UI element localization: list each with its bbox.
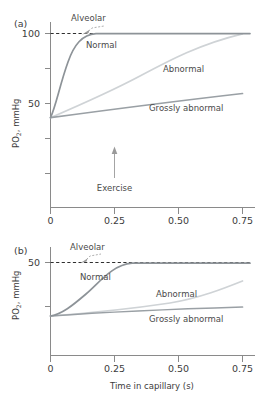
panel-b: (b) PO2, mmHg 50 0 0.25 0.50 0.75 Time (11, 242, 255, 391)
panel-a-x-ticklabel-0: 0 (47, 215, 53, 226)
panel-a-label-grossly-abnormal: Grossly abnormal (149, 103, 223, 113)
svg-text:PO2, mmHg: PO2, mmHg (11, 98, 22, 148)
panel-a-x-ticklabel-075: 0.75 (232, 215, 253, 226)
panel-b-label-abnormal: Abnormal (156, 289, 197, 299)
panel-b-x-ticklabel-0: 0 (47, 363, 53, 374)
panel-a-exercise-arrow-icon (112, 147, 118, 155)
panel-a-y-ticklabel-50: 50 (28, 98, 40, 109)
panel-b-x-axis-title: Time in capillary (s) (109, 381, 194, 391)
panel-b-x-ticklabel-075: 0.75 (232, 363, 253, 374)
panel-a: (a) PO2, mmHg 100 50 0 (11, 13, 255, 226)
panel-b-y-axis-title: PO2, mmHg (11, 270, 22, 320)
panel-b-label-normal: Normal (80, 272, 111, 282)
panel-b-y-axis-title-text: PO (11, 308, 21, 320)
figure-container: (a) PO2, mmHg 100 50 0 (0, 0, 262, 405)
panel-b-label-grossly-abnormal: Grossly abnormal (149, 314, 223, 324)
figure-svg: (a) PO2, mmHg 100 50 0 (0, 0, 262, 405)
panel-b-x-ticklabel-050: 0.50 (168, 363, 189, 374)
panel-a-label-normal: Normal (86, 40, 117, 50)
panel-a-x-ticklabel-050: 0.50 (168, 215, 189, 226)
panel-a-y-axis-title-text: PO (11, 136, 21, 148)
panel-b-alveolar-label: Alveolar (70, 242, 105, 252)
panel-a-label-abnormal: Abnormal (163, 64, 204, 74)
panel-a-alveolar-label: Alveolar (71, 13, 106, 23)
panel-a-x-ticklabel-025: 0.25 (104, 215, 125, 226)
panel-a-y-axis-title: PO2, mmHg (11, 98, 22, 148)
panel-a-y-ticklabel-100: 100 (22, 28, 40, 39)
panel-b-y-ticklabel-50: 50 (28, 257, 40, 268)
svg-text:PO2, mmHg: PO2, mmHg (11, 270, 22, 320)
panel-a-exercise-label: Exercise (97, 183, 132, 193)
panel-b-x-ticklabel-025: 0.25 (104, 363, 125, 374)
panel-b-label: (b) (14, 245, 27, 256)
